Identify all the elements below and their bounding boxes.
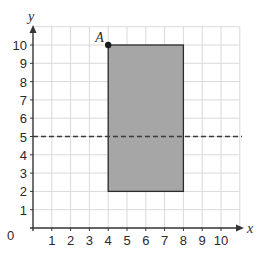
- y-tick-label: 4: [20, 148, 27, 163]
- y-tick-labels: 12345678910: [13, 38, 27, 218]
- point-a-marker: [105, 42, 111, 48]
- y-tick-label: 3: [20, 166, 27, 181]
- x-tick-label: 6: [142, 233, 149, 248]
- x-tick-label: 2: [67, 233, 74, 248]
- x-tick-label: 3: [86, 233, 93, 248]
- x-tick-label: 8: [180, 233, 187, 248]
- y-axis-label: y: [26, 9, 35, 24]
- x-tick-label: 1: [48, 233, 55, 248]
- y-tick-label: 2: [20, 184, 27, 199]
- coordinate-diagram: 12345678910 12345678910 0 x y A: [0, 0, 261, 253]
- x-axis-label: x: [246, 221, 254, 236]
- y-tick-label: 5: [20, 130, 27, 145]
- x-tick-label: 10: [214, 233, 228, 248]
- y-tick-label: 8: [20, 75, 27, 90]
- x-tick-labels: 12345678910: [48, 233, 228, 248]
- x-tick-label: 5: [123, 233, 130, 248]
- x-tick-label: 7: [161, 233, 168, 248]
- x-tick-label: 9: [199, 233, 206, 248]
- origin-label: 0: [7, 228, 14, 243]
- y-tick-label: 1: [20, 203, 27, 218]
- shaded-rectangle: [108, 45, 183, 191]
- y-tick-label: 7: [20, 93, 27, 108]
- x-tick-label: 4: [105, 233, 112, 248]
- y-tick-label: 6: [20, 111, 27, 126]
- y-tick-label: 9: [20, 56, 27, 71]
- y-tick-label: 10: [13, 38, 27, 53]
- point-a-label: A: [94, 30, 104, 45]
